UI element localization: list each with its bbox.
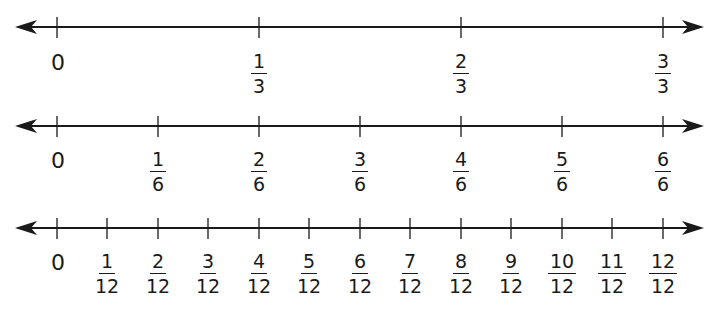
denominator: 6 [152, 172, 164, 194]
denominator: 12 [95, 274, 119, 296]
fraction-label: 13 [251, 52, 267, 96]
fraction-label: 512 [297, 252, 321, 296]
number-line-sixths [15, 116, 704, 137]
fraction-label: 712 [398, 252, 422, 296]
tick-label-zero: 0 [51, 52, 65, 74]
numerator: 8 [453, 252, 469, 274]
fraction-label: 1112 [598, 252, 626, 296]
numerator: 2 [251, 150, 267, 172]
numerator: 6 [352, 252, 368, 274]
denominator: 6 [657, 172, 669, 194]
denominator: 12 [651, 274, 675, 296]
fraction-label: 212 [146, 252, 170, 296]
denominator: 12 [600, 274, 624, 296]
fraction-label: 1012 [548, 252, 576, 296]
numerator: 1 [251, 52, 267, 74]
numerator: 11 [598, 252, 626, 274]
numerator: 10 [548, 252, 576, 274]
numerator: 2 [150, 252, 166, 274]
numerator: 2 [453, 52, 469, 74]
fraction-label: 36 [352, 150, 368, 194]
fraction-label: 16 [150, 150, 166, 194]
numerator: 7 [402, 252, 418, 274]
denominator: 6 [253, 172, 265, 194]
fraction-label: 23 [453, 52, 469, 96]
fraction-label: 26 [251, 150, 267, 194]
denominator: 12 [146, 274, 170, 296]
numerator: 3 [200, 252, 216, 274]
numerator: 1 [99, 252, 115, 274]
numerator: 3 [352, 150, 368, 172]
denominator: 12 [499, 274, 523, 296]
number-line-twelfths [15, 218, 704, 239]
fraction-label: 412 [247, 252, 271, 296]
fraction-label: 33 [655, 52, 671, 96]
denominator: 12 [449, 274, 473, 296]
fraction-label: 612 [348, 252, 372, 296]
fraction-label: 66 [655, 150, 671, 194]
denominator: 6 [455, 172, 467, 194]
denominator: 12 [247, 274, 271, 296]
fraction-label: 46 [453, 150, 469, 194]
denominator: 6 [354, 172, 366, 194]
fraction-label: 112 [95, 252, 119, 296]
fraction-label: 56 [554, 150, 570, 194]
numerator: 9 [503, 252, 519, 274]
denominator: 12 [348, 274, 372, 296]
denominator: 12 [196, 274, 220, 296]
denominator: 3 [253, 74, 265, 96]
numerator: 12 [649, 252, 677, 274]
number-line-thirds [15, 17, 704, 38]
denominator: 3 [455, 74, 467, 96]
fraction-label: 312 [196, 252, 220, 296]
fraction-label: 1212 [649, 252, 677, 296]
numerator: 3 [655, 52, 671, 74]
tick-label-zero: 0 [51, 150, 65, 172]
denominator: 6 [556, 172, 568, 194]
fraction-label: 812 [449, 252, 473, 296]
denominator: 12 [398, 274, 422, 296]
numerator: 6 [655, 150, 671, 172]
tick-label-zero: 0 [51, 252, 65, 274]
numerator: 5 [301, 252, 317, 274]
fraction-label: 912 [499, 252, 523, 296]
denominator: 12 [550, 274, 574, 296]
denominator: 12 [297, 274, 321, 296]
denominator: 3 [657, 74, 669, 96]
numerator: 4 [251, 252, 267, 274]
numerator: 4 [453, 150, 469, 172]
numerator: 1 [150, 150, 166, 172]
numerator: 5 [554, 150, 570, 172]
